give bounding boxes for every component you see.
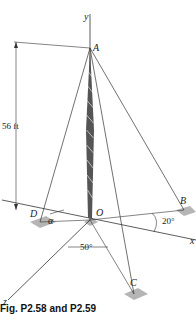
arrowhead-top — [14, 42, 18, 48]
axis-label-x: x — [189, 235, 195, 246]
point-label-c: C — [130, 277, 137, 288]
anchor-pad-b — [176, 206, 196, 216]
dimension-extension-top — [14, 42, 90, 48]
arrowhead-bottom — [14, 204, 18, 210]
axis-label-y: y — [83, 11, 89, 22]
cable-ab — [90, 48, 184, 210]
angle-label-alpha: α — [48, 215, 54, 226]
angle-label-50: 50° — [80, 242, 93, 252]
z-axis — [8, 220, 90, 300]
point-label-a: A — [92, 42, 100, 53]
dimension-label-height: 56 ft — [2, 121, 19, 131]
anchor-pad-c — [124, 288, 148, 300]
angle-arc-20 — [152, 213, 157, 232]
mast — [86, 48, 94, 218]
angle-label-20: 20° — [162, 216, 175, 226]
point-label-d: D — [29, 208, 38, 219]
point-label-b: B — [180, 195, 186, 206]
cable-ad — [40, 48, 90, 222]
guyed-mast-diagram: y A 56 ft D α O B 20° 50° C z x — [0, 0, 196, 314]
figure-caption: Fig. P2.58 and P2.59 — [0, 303, 96, 314]
point-label-o: O — [96, 207, 103, 218]
